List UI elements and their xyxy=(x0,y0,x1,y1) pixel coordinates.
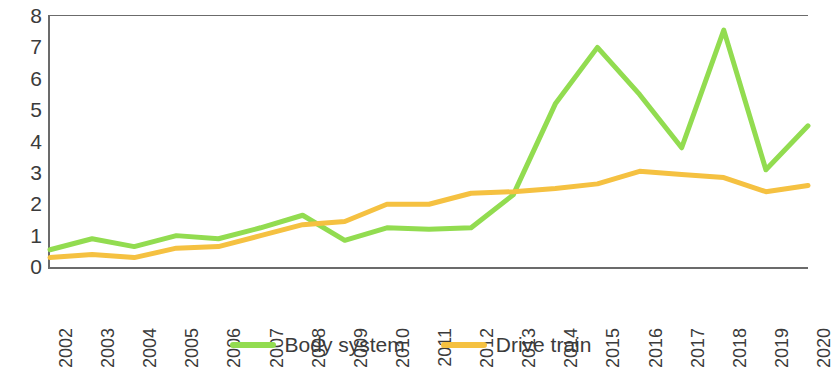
plot-area xyxy=(48,16,808,269)
y-axis-tick-label: 8 xyxy=(6,5,42,26)
legend-label: Drive train xyxy=(496,334,592,356)
y-axis-tick-label: 0 xyxy=(6,256,42,277)
x-axis: 2002200320042005200620072008200920102011… xyxy=(48,270,808,332)
y-axis: 012345678 xyxy=(0,0,42,300)
chart-legend: Body systemDrive train xyxy=(0,334,821,356)
legend-item[interactable]: Body system xyxy=(230,334,405,356)
y-axis-tick-label: 3 xyxy=(6,162,42,183)
series-line-0 xyxy=(50,30,808,250)
y-axis-tick-label: 2 xyxy=(6,193,42,214)
legend-label: Body system xyxy=(285,334,405,356)
series-line-1 xyxy=(50,171,808,257)
y-axis-tick-label: 1 xyxy=(6,225,42,246)
series-layer xyxy=(50,16,808,267)
y-axis-tick-label: 6 xyxy=(6,68,42,89)
legend-item[interactable]: Drive train xyxy=(441,334,592,356)
legend-swatch-icon xyxy=(441,342,487,348)
y-axis-tick-label: 7 xyxy=(6,36,42,57)
y-axis-tick-label: 5 xyxy=(6,99,42,120)
y-axis-tick-label: 4 xyxy=(6,131,42,152)
legend-swatch-icon xyxy=(230,342,276,348)
